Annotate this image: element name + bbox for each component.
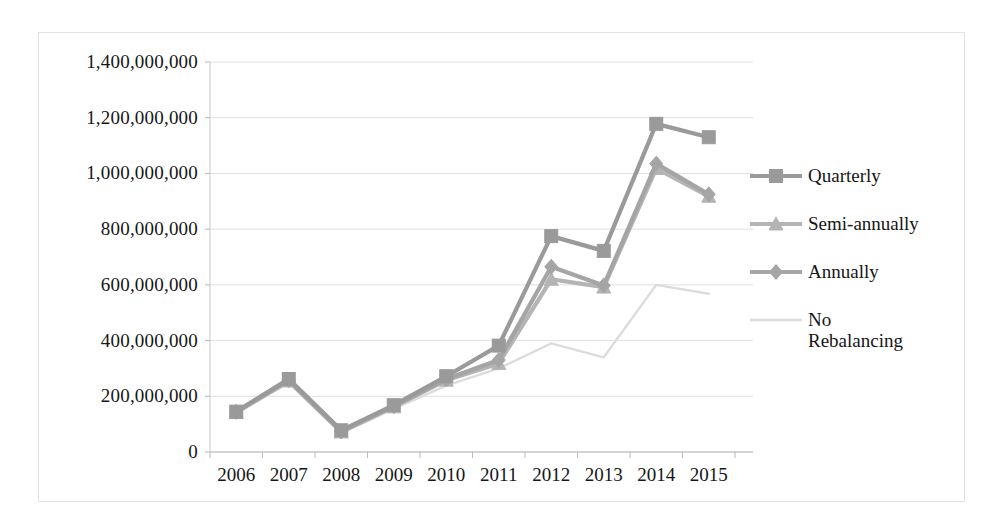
- legend-item-semi-annually[interactable]: Semi-annually: [748, 213, 919, 234]
- x-axis-tick-label: 2006: [206, 465, 266, 484]
- data-point-marker: [335, 424, 348, 437]
- y-axis-tick-label: 200,000,000: [28, 386, 198, 405]
- data-point-marker: [597, 244, 610, 257]
- x-axis-tick-label: 2013: [574, 465, 634, 484]
- legend-item-annually[interactable]: Annually: [748, 261, 879, 282]
- x-axis-tick-label: 2014: [626, 465, 686, 484]
- legend-label: Semi-annually: [804, 213, 919, 234]
- x-axis-tick-label: 2010: [416, 465, 476, 484]
- x-axis-tick-label: 2015: [679, 465, 739, 484]
- y-axis-tick-label: 0: [28, 442, 198, 461]
- y-axis-tick-label: 1,000,000,000: [28, 163, 198, 182]
- y-axis-tick-label: 800,000,000: [28, 219, 198, 238]
- data-point-marker: [545, 230, 558, 243]
- legend-marker-icon: [748, 214, 804, 234]
- data-point-marker: [770, 170, 783, 183]
- data-series-layer: [229, 117, 716, 439]
- axis-lines: [205, 62, 753, 452]
- x-axis-ticks: [210, 452, 735, 458]
- x-axis-tick-label: 2011: [469, 465, 529, 484]
- legend-marker-icon: [748, 166, 804, 186]
- legend-item-no-rebalancing[interactable]: No Rebalancing: [748, 309, 903, 351]
- legend-label: Quarterly: [804, 165, 881, 186]
- legend-marker-icon: [748, 310, 804, 330]
- legend-marker-icon: [748, 262, 804, 282]
- series-quarterly: [230, 117, 716, 436]
- data-point-marker: [282, 373, 295, 386]
- series-line: [236, 124, 709, 430]
- y-axis-tick-label: 400,000,000: [28, 331, 198, 350]
- series-line: [236, 164, 709, 432]
- x-axis-tick-label: 2012: [521, 465, 581, 484]
- data-point-marker: [440, 370, 453, 383]
- y-axis-tick-label: 600,000,000: [28, 275, 198, 294]
- data-point-marker: [230, 405, 243, 418]
- data-point-marker: [702, 131, 715, 144]
- data-point-marker: [650, 117, 663, 130]
- y-axis-tick-label: 1,200,000,000: [28, 108, 198, 127]
- legend-label: No Rebalancing: [804, 309, 903, 351]
- y-axis-tick-label: 1,400,000,000: [28, 52, 198, 71]
- gridlines: [210, 62, 753, 452]
- x-axis-tick-label: 2008: [311, 465, 371, 484]
- x-axis-tick-label: 2009: [364, 465, 424, 484]
- data-point-marker: [770, 265, 783, 280]
- x-axis-tick-label: 2007: [259, 465, 319, 484]
- legend-label: Annually: [804, 261, 879, 282]
- legend-item-quarterly[interactable]: Quarterly: [748, 165, 881, 186]
- data-point-marker: [492, 339, 505, 352]
- data-point-marker: [387, 399, 400, 412]
